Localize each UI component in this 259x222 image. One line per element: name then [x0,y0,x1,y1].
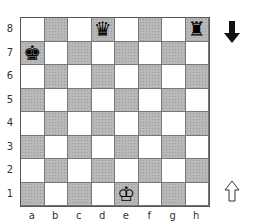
file-label-c: c [67,210,91,221]
square-b6[interactable] [45,65,69,89]
square-h8[interactable]: ♜ [186,18,210,42]
square-g1[interactable] [162,183,186,207]
square-f3[interactable] [139,136,163,160]
square-d2[interactable] [92,159,116,183]
square-g7[interactable] [162,42,186,66]
square-g5[interactable] [162,89,186,113]
square-h5[interactable] [186,89,210,113]
rank-label-6: 6 [5,70,15,81]
chess-board[interactable]: ♛♜♚♔ [20,17,210,207]
square-c6[interactable] [68,65,92,89]
square-c1[interactable] [68,183,92,207]
file-label-h: h [185,210,209,221]
square-b7[interactable] [45,42,69,66]
rank-label-2: 2 [5,164,15,175]
square-c5[interactable] [68,89,92,113]
square-e7[interactable] [115,42,139,66]
square-g3[interactable] [162,136,186,160]
square-c2[interactable] [68,159,92,183]
white-to-move-arrow-icon [224,180,240,202]
square-a1[interactable] [21,183,45,207]
rank-label-4: 4 [5,117,15,128]
square-d5[interactable] [92,89,116,113]
square-g2[interactable] [162,159,186,183]
square-h3[interactable] [186,136,210,160]
square-c4[interactable] [68,112,92,136]
rank-label-5: 5 [5,94,15,105]
square-f1[interactable] [139,183,163,207]
square-c3[interactable] [68,136,92,160]
square-a2[interactable] [21,159,45,183]
square-a8[interactable] [21,18,45,42]
file-label-f: f [138,210,162,221]
square-e5[interactable] [115,89,139,113]
square-h6[interactable] [186,65,210,89]
rank-label-1: 1 [5,188,15,199]
square-d7[interactable] [92,42,116,66]
square-a4[interactable] [21,112,45,136]
rank-label-8: 8 [5,23,15,34]
square-g6[interactable] [162,65,186,89]
square-a3[interactable] [21,136,45,160]
square-c7[interactable] [68,42,92,66]
square-g4[interactable] [162,112,186,136]
square-b2[interactable] [45,159,69,183]
square-a6[interactable] [21,65,45,89]
square-h1[interactable] [186,183,210,207]
black-king-icon[interactable]: ♚ [23,43,41,63]
file-label-d: d [91,210,115,221]
square-h4[interactable] [186,112,210,136]
square-a7[interactable]: ♚ [21,42,45,66]
square-f4[interactable] [139,112,163,136]
white-king-icon[interactable]: ♔ [117,184,135,204]
black-rook-icon[interactable]: ♜ [188,19,206,39]
square-e1[interactable]: ♔ [115,183,139,207]
square-b1[interactable] [45,183,69,207]
square-h2[interactable] [186,159,210,183]
square-f7[interactable] [139,42,163,66]
square-d8[interactable]: ♛ [92,18,116,42]
file-label-a: a [20,210,44,221]
square-e2[interactable] [115,159,139,183]
square-g8[interactable] [162,18,186,42]
square-d6[interactable] [92,65,116,89]
square-e6[interactable] [115,65,139,89]
square-e3[interactable] [115,136,139,160]
square-f8[interactable] [139,18,163,42]
square-f5[interactable] [139,89,163,113]
rank-label-3: 3 [5,141,15,152]
square-d4[interactable] [92,112,116,136]
square-h7[interactable] [186,42,210,66]
black-queen-icon[interactable]: ♛ [94,19,112,39]
black-to-move-arrow-icon [224,21,240,43]
square-a5[interactable] [21,89,45,113]
square-b8[interactable] [45,18,69,42]
file-label-e: e [114,210,138,221]
square-e8[interactable] [115,18,139,42]
file-label-b: b [44,210,68,221]
square-b5[interactable] [45,89,69,113]
square-b4[interactable] [45,112,69,136]
square-f2[interactable] [139,159,163,183]
square-d1[interactable] [92,183,116,207]
square-d3[interactable] [92,136,116,160]
square-f6[interactable] [139,65,163,89]
square-e4[interactable] [115,112,139,136]
square-b3[interactable] [45,136,69,160]
rank-label-7: 7 [5,47,15,58]
file-label-g: g [161,210,185,221]
square-c8[interactable] [68,18,92,42]
